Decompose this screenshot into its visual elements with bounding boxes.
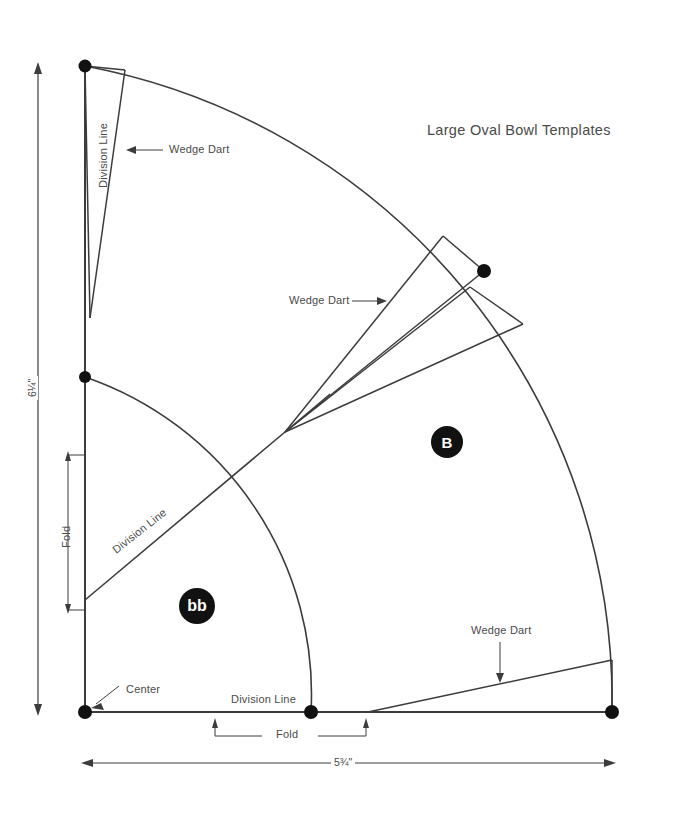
region-label-b: B bbox=[431, 426, 463, 458]
vertical-dimension-value: 6¼" bbox=[26, 376, 38, 400]
label-division-line-vertical: Division Line bbox=[97, 123, 109, 188]
wedge-dart-top-right-leg bbox=[90, 70, 125, 318]
vertex-dot-bottom-division bbox=[304, 705, 318, 719]
label-fold-bottom: Fold bbox=[276, 728, 298, 740]
fold-bottom-arrow-right bbox=[363, 718, 369, 728]
horizontal-dimension-value: 5¾" bbox=[331, 756, 355, 768]
wedge-dart-mid-base-2 bbox=[470, 287, 523, 324]
label-fold-left: Fold bbox=[60, 526, 72, 548]
vertex-dot-top bbox=[79, 60, 92, 73]
outer-arc bbox=[85, 66, 612, 712]
wedge-dart-mid-base-1 bbox=[443, 236, 484, 271]
label-division-line-bottom: Division Line bbox=[231, 693, 296, 705]
wedge-dart-top-leader-arrow bbox=[126, 146, 136, 154]
pattern-sheet: Large Oval Bowl Templates Division Line … bbox=[0, 0, 677, 815]
label-wedge-dart-top: Wedge Dart bbox=[169, 143, 230, 155]
wedge-dart-mid-leg-3 bbox=[285, 287, 470, 432]
wedge-dart-mid-leg-4 bbox=[285, 324, 523, 432]
diagonal-division-line-ext bbox=[285, 394, 330, 432]
wedge-dart-mid-leg-1 bbox=[285, 236, 443, 432]
label-wedge-dart-middle: Wedge Dart bbox=[289, 294, 350, 306]
vertex-dot-arc-node bbox=[477, 264, 491, 278]
region-label-bb: bb bbox=[179, 588, 215, 624]
horizontal-dimension-arrow-left bbox=[81, 759, 93, 767]
center-leader-line bbox=[96, 686, 119, 704]
page-title: Large Oval Bowl Templates bbox=[427, 122, 611, 138]
horizontal-dimension-arrow-right bbox=[604, 759, 616, 767]
wedge-dart-bottom-upper-leg bbox=[368, 660, 612, 712]
label-wedge-dart-bottom: Wedge Dart bbox=[471, 624, 532, 636]
fold-left-arrow-top bbox=[65, 451, 71, 461]
vertical-dimension-arrow-top bbox=[34, 62, 42, 74]
center-leader-arrow bbox=[91, 703, 104, 710]
vertex-dot-left-inner bbox=[79, 371, 91, 383]
fold-left-arrow-bottom bbox=[65, 604, 71, 614]
label-center: Center bbox=[126, 683, 160, 695]
vertex-dot-bottom-right bbox=[605, 705, 619, 719]
vertex-dot-center bbox=[78, 705, 92, 719]
diagonal-division-line bbox=[85, 432, 285, 600]
vertical-dimension-arrow-bottom bbox=[34, 704, 42, 716]
fold-bottom-arrow-left bbox=[212, 718, 218, 728]
wedge-dart-bottom-leader-arrow bbox=[496, 673, 504, 683]
wedge-dart-mid-leader-arrow bbox=[377, 297, 387, 305]
